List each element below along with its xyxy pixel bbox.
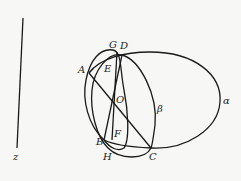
label-point-g: G [109, 39, 117, 50]
geometry-diagram: z α β G D A E O F B H C [0, 0, 241, 181]
label-point-b: B [95, 136, 103, 147]
label-point-e: E [103, 63, 112, 74]
label-point-h: H [102, 151, 112, 162]
label-point-f: F [113, 128, 122, 139]
label-point-a: A [77, 64, 85, 75]
label-beta: β [156, 103, 163, 114]
label-point-d: D [119, 40, 128, 51]
label-point-o: O [116, 94, 124, 105]
label-point-c: C [149, 151, 157, 162]
label-z: z [12, 151, 19, 162]
axis-z-line [17, 18, 23, 148]
label-alpha: α [223, 95, 230, 106]
